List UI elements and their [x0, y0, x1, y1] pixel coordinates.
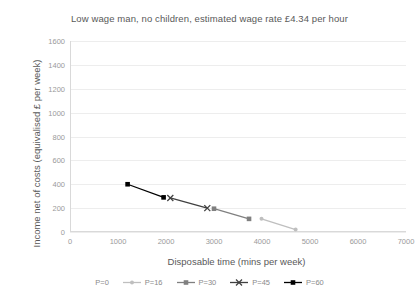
legend-item-p0[interactable]: P=0 [95, 278, 109, 287]
legend-item-p16[interactable]: P=16 [122, 278, 163, 287]
y-tick-label: 1000 [48, 108, 65, 117]
legend-label: P=30 [199, 278, 217, 287]
legend-label: P=16 [145, 278, 163, 287]
legend-marker-icon [229, 278, 249, 287]
legend-marker-icon [122, 278, 142, 287]
y-tick-label: 200 [52, 204, 65, 213]
y-tick-label: 400 [52, 180, 65, 189]
x-tick-label: 1000 [110, 237, 127, 246]
data-series-layer [70, 41, 406, 232]
x-tick-label: 4000 [254, 237, 271, 246]
chart-title: Low wage man, no children, estimated wag… [0, 13, 419, 24]
data-series [125, 182, 166, 200]
x-tick-label: 3000 [206, 237, 223, 246]
y-axis-title: Income net of costs (equivalised £ per w… [31, 49, 42, 259]
x-tick-label: 5000 [302, 237, 319, 246]
legend-label: P=60 [306, 278, 324, 287]
y-tick-label: 0 [61, 228, 65, 237]
legend-marker-icon [176, 278, 196, 287]
y-tick-label: 1600 [48, 37, 65, 46]
data-series [212, 206, 252, 221]
legend-label: P=45 [252, 278, 270, 287]
legend-item-p30[interactable]: P=30 [176, 278, 217, 287]
y-tick-label: 800 [52, 132, 65, 141]
legend-label: P=0 [95, 278, 109, 287]
chart-legend: P=0P=16P=30P=45P=60 [0, 278, 419, 287]
x-tick-label: 0 [68, 237, 72, 246]
y-tick-label: 1400 [48, 60, 65, 69]
y-tick-label: 1200 [48, 84, 65, 93]
plot-area: 02004006008001000120014001600 0100020003… [70, 41, 406, 232]
data-series [260, 217, 298, 232]
legend-item-p60[interactable]: P=60 [283, 278, 324, 287]
chart-container: Low wage man, no children, estimated wag… [0, 0, 419, 303]
x-tick-label: 6000 [350, 237, 367, 246]
x-tick-label: 7000 [398, 237, 415, 246]
x-axis-title: Disposable time (mins per week) [60, 256, 413, 267]
x-tick-label: 2000 [158, 237, 175, 246]
legend-marker-icon [283, 278, 303, 287]
y-tick-label: 600 [52, 156, 65, 165]
gridline [70, 232, 406, 233]
data-series [167, 195, 210, 211]
legend-item-p45[interactable]: P=45 [229, 278, 270, 287]
